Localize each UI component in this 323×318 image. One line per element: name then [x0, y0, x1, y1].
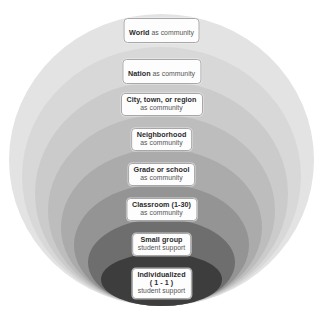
label-world-secondary: as community	[150, 29, 194, 36]
label-neighborhood: Neighborhood as community	[131, 128, 193, 151]
label-neighborhood-primary: Neighborhood	[137, 131, 187, 139]
label-classroom-secondary: as community	[132, 209, 191, 217]
nested-community-spheres-diagram: World as community Nation as community C…	[0, 0, 323, 318]
label-city-town-region-primary: City, town, or region	[127, 96, 197, 104]
label-city-town-region: City, town, or region as community	[121, 93, 203, 116]
label-nation: Nation as community	[122, 59, 201, 84]
label-world: World as community	[123, 18, 200, 43]
label-grade-or-school: Grade or school as community	[128, 163, 196, 186]
label-nation-secondary: as community	[151, 70, 195, 77]
label-neighborhood-secondary: as community	[137, 139, 187, 147]
label-grade-or-school-secondary: as community	[134, 174, 190, 182]
label-grade-or-school-primary: Grade or school	[134, 166, 190, 174]
label-individualized-secondary: student support	[137, 287, 185, 295]
label-individualized-ratio: ( 1 - 1 )	[137, 279, 185, 287]
label-small-group-secondary: student support	[138, 244, 186, 252]
label-world-primary: World	[129, 28, 149, 37]
label-small-group-primary: Small group	[138, 236, 186, 244]
label-individualized: Individualized ( 1 - 1 ) student support	[131, 268, 191, 299]
label-small-group: Small group student support	[132, 233, 192, 256]
label-classroom: Classroom (1-30) as community	[126, 198, 197, 221]
label-classroom-primary: Classroom (1-30)	[132, 201, 191, 209]
label-nation-primary: Nation	[128, 69, 151, 78]
label-city-town-region-secondary: as community	[127, 104, 197, 112]
